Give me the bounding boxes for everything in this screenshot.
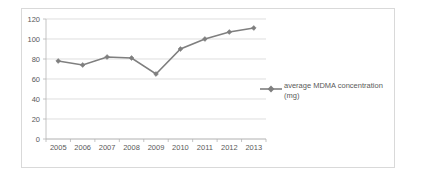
- x-axis-tick-label: 2011: [197, 143, 213, 152]
- x-axis-tick-label: 2007: [99, 143, 116, 152]
- x-axis-tick-label: 2006: [74, 143, 91, 152]
- series-data-point: [251, 26, 256, 31]
- legend-label-line2: (mg): [284, 91, 299, 100]
- y-axis-tick-label: 40: [32, 95, 40, 104]
- x-axis-tick-label: 2012: [221, 143, 238, 152]
- chart-frame: 120100806040200 200520062007200820092010…: [21, 8, 395, 168]
- legend-marker-icon: [260, 85, 282, 93]
- series-data-point: [202, 37, 207, 42]
- chart-legend: average MDMA concentration (mg): [260, 81, 390, 101]
- x-axis-tick-label: 2013: [245, 143, 262, 152]
- series-data-point: [80, 63, 85, 68]
- x-axis-tick-marks: [46, 139, 266, 142]
- x-axis-tick-labels: 200520062007200820092010201120122013: [50, 143, 262, 152]
- y-axis-tick-label: 20: [32, 115, 40, 124]
- x-axis-tick-label: 2009: [148, 143, 165, 152]
- x-axis-tick-label: 2005: [50, 143, 67, 152]
- y-axis-tick-label: 60: [32, 75, 40, 84]
- legend-label: average MDMA concentration (mg): [284, 81, 383, 101]
- x-axis-tick-label: 2008: [123, 143, 140, 152]
- y-axis-tick-label: 100: [27, 35, 40, 44]
- gridlines-group: [43, 19, 266, 139]
- series-data-point: [227, 30, 232, 35]
- x-axis-tick-label: 2010: [172, 143, 189, 152]
- y-axis-tick-label: 80: [32, 55, 40, 64]
- y-axis-tick-label: 0: [36, 135, 40, 144]
- y-axis-tick-label: 120: [27, 15, 40, 24]
- y-axis-tick-labels: 120100806040200: [27, 15, 40, 144]
- legend-label-line1: average MDMA concentration: [284, 81, 383, 90]
- series-line-average-mdma-concentration: [58, 28, 254, 74]
